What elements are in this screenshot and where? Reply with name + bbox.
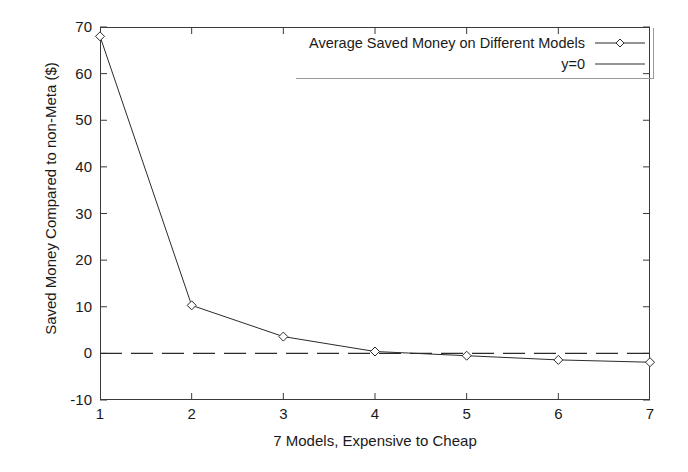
x-tick-label-text: 5 xyxy=(447,406,487,421)
legend-entry-zero-line: y=0 xyxy=(296,53,647,74)
x-axis-title: 7 Models, Expensive to Cheap xyxy=(100,432,650,449)
x-tick-label: 3 xyxy=(263,406,303,424)
x-tick-label: 1 xyxy=(80,406,120,424)
legend-label-zero-line: y=0 xyxy=(561,56,585,72)
x-tick-label-text: 4 xyxy=(355,406,395,421)
x-tick-label-text: 1 xyxy=(80,406,120,421)
x-axis-tick-marks xyxy=(192,27,559,400)
data-series-line xyxy=(100,36,650,362)
chart-figure: -10010203040506070 1234567 Saved Money C… xyxy=(0,0,688,472)
x-tick-label: 7 xyxy=(630,406,670,424)
legend-label-series: Average Saved Money on Different Models xyxy=(309,35,585,51)
x-tick-label: 6 xyxy=(538,406,578,424)
x-tick-label: 4 xyxy=(355,406,395,424)
x-tick-label-text: 6 xyxy=(538,406,578,421)
chart-legend: Average Saved Money on Different Models … xyxy=(296,28,654,79)
x-tick-label-text: 7 xyxy=(630,406,670,421)
y-axis-tick-marks xyxy=(100,27,650,400)
x-tick-label: 5 xyxy=(447,406,487,424)
legend-entry-series: Average Saved Money on Different Models xyxy=(296,32,647,53)
x-tick-label-text: 3 xyxy=(263,406,303,421)
x-tick-label-text: 2 xyxy=(172,406,212,421)
y-axis-title: Saved Money Compared to non-Meta ($) xyxy=(42,9,59,389)
legend-key-plain-line xyxy=(593,57,647,71)
y-tick-label: -10 xyxy=(48,392,92,407)
data-point-markers xyxy=(96,32,655,367)
x-tick-label: 2 xyxy=(172,406,212,424)
legend-key-line-with-diamond-marker xyxy=(593,36,647,50)
y-tick-label-text: -10 xyxy=(48,392,92,407)
